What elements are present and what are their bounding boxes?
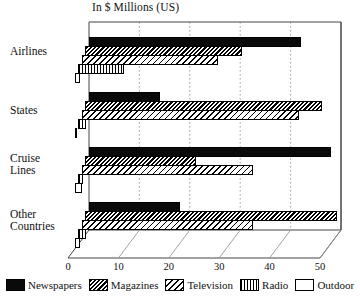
bar-airlines-outdoor (75, 73, 80, 83)
x-axis-tick-30: 30 (209, 261, 229, 272)
legend-swatch-outdoor-icon (295, 279, 314, 291)
chart-legend: NewspapersMagazinesTelevisionRadioOutdoo… (6, 279, 360, 291)
legend-swatch-television-icon (165, 279, 184, 291)
legend-swatch-radio-icon (240, 279, 259, 291)
legend-swatch-magazines-icon (89, 279, 108, 291)
category-label-airlines: Airlines (10, 45, 82, 57)
bar-states-outdoor (75, 128, 77, 138)
x-axis-tick-0: 0 (58, 261, 78, 272)
x-axis-tick-50: 50 (310, 261, 330, 272)
legend-item-magazines[interactable]: Magazines (89, 279, 159, 291)
category-label-other-countries: Other Countries (10, 208, 82, 232)
x-axis-tick-20: 20 (159, 261, 179, 272)
legend-item-outdoor[interactable]: Outdoor (295, 279, 354, 291)
bar-cruise-lines-outdoor (75, 183, 83, 193)
bar-face (82, 165, 253, 175)
category-label-cruise-lines: Cruise Lines (10, 152, 82, 176)
legend-label: Radio (262, 279, 288, 291)
legend-label: Television (187, 279, 233, 291)
legend-item-radio[interactable]: Radio (240, 279, 288, 291)
legend-swatch-newspapers-icon (6, 279, 25, 291)
bar-other-countries-outdoor (75, 238, 80, 248)
bar-chart: In $ Millions (US) Airlines States Cruis… (0, 0, 360, 300)
bar-face (75, 183, 83, 193)
bar-cruise-lines-television (82, 165, 253, 175)
bar-states-television (82, 110, 299, 120)
bar-face (82, 220, 253, 230)
bar-face (75, 73, 80, 83)
x-axis-tick-40: 40 (260, 261, 280, 272)
bar-face (82, 110, 299, 120)
category-label-states: States (10, 104, 82, 116)
bar-states-radio (78, 119, 86, 129)
bar-airlines-radio (78, 64, 123, 74)
bar-face (75, 238, 80, 248)
bar-face (78, 119, 86, 129)
legend-label: Newspapers (28, 279, 82, 291)
bar-face (75, 128, 77, 138)
legend-label: Magazines (111, 279, 159, 291)
legend-item-newspapers[interactable]: Newspapers (6, 279, 82, 291)
legend-item-television[interactable]: Television (165, 279, 233, 291)
bar-other-countries-television (82, 220, 253, 230)
legend-label: Outdoor (317, 279, 354, 291)
x-axis-tick-10: 10 (108, 261, 128, 272)
bar-face (78, 64, 123, 74)
